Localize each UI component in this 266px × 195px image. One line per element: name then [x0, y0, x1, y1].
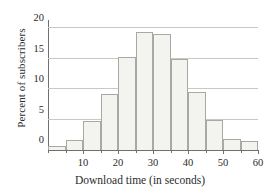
histogram-bar — [171, 59, 189, 150]
histogram-bar — [136, 32, 154, 150]
histogram-bar — [188, 92, 206, 150]
histogram-bar — [153, 34, 171, 150]
y-tick-label: 15 — [26, 44, 44, 54]
plot-inner — [48, 22, 258, 150]
x-axis-tick-labels: 102030405060 — [48, 157, 259, 170]
histogram-bar — [118, 57, 136, 150]
x-tick — [118, 150, 119, 154]
x-tick-minor — [101, 150, 102, 153]
x-tick — [188, 150, 189, 154]
x-tick — [153, 150, 154, 154]
x-tick-label: 50 — [211, 157, 235, 169]
histogram-bar — [223, 139, 241, 150]
x-tick-minor — [241, 150, 242, 153]
histogram-bar — [206, 120, 224, 150]
x-tick-minor — [206, 150, 207, 153]
y-axis-tick-labels: 05101520 — [24, 22, 44, 150]
y-tick-label: 0 — [26, 135, 44, 145]
histogram-figure: Percent of subscribers 05101520 10203040… — [0, 0, 266, 195]
histogram-bar — [241, 141, 259, 150]
x-tick — [258, 150, 259, 154]
x-tick-minor — [66, 150, 67, 153]
y-tick-label: 10 — [26, 74, 44, 84]
x-tick-minor — [48, 150, 49, 153]
x-tick-label: 20 — [106, 157, 130, 169]
histogram-bar — [83, 121, 101, 150]
x-tick — [83, 150, 84, 154]
histogram-bar — [66, 140, 84, 150]
x-axis-ticks — [48, 150, 259, 155]
x-tick-label: 60 — [246, 157, 266, 169]
gridline — [48, 27, 258, 28]
x-tick-label: 30 — [141, 157, 165, 169]
x-tick — [223, 150, 224, 154]
x-tick-minor — [136, 150, 137, 153]
plot-area — [48, 22, 258, 150]
y-tick-label: 5 — [26, 105, 44, 115]
y-tick-label: 20 — [26, 13, 44, 23]
x-tick-minor — [171, 150, 172, 153]
x-tick-label: 40 — [176, 157, 200, 169]
x-tick-label: 10 — [71, 157, 95, 169]
x-axis-label: Download time (in seconds) — [30, 173, 250, 187]
histogram-bar — [101, 94, 119, 150]
